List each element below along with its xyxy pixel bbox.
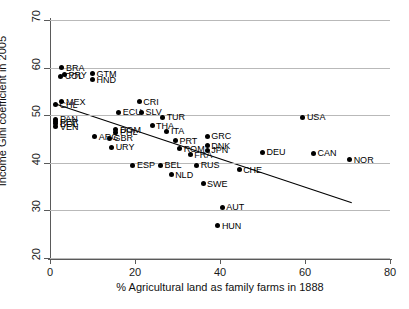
- data-point-label-swe: SWE: [207, 180, 228, 189]
- data-point-gbr[interactable]: [107, 136, 112, 141]
- data-point-grc[interactable]: [205, 134, 210, 139]
- data-point-tur[interactable]: [160, 115, 165, 120]
- data-point-label-jpn: JPN: [211, 146, 228, 155]
- y-tick-50: [44, 115, 50, 116]
- data-point-aut[interactable]: [220, 205, 225, 210]
- data-point-label-bel: BEL: [165, 161, 182, 170]
- data-point-label-ury: URY: [116, 143, 135, 152]
- y-tick-label-wrap-30: 30: [26, 210, 42, 211]
- y-tick-label-60: 60: [31, 58, 42, 70]
- y-tick-label-wrap-20: 20: [26, 258, 42, 259]
- gridline-y-40: [50, 163, 390, 164]
- data-point-label-fra: FRA: [194, 151, 212, 160]
- data-point-label-esp: ESP: [137, 161, 155, 170]
- y-tick-label-30: 30: [31, 200, 42, 212]
- data-point-bel[interactable]: [158, 163, 163, 168]
- data-point-deu[interactable]: [260, 150, 265, 155]
- y-tick-30: [44, 210, 50, 211]
- y-tick-label-70: 70: [31, 10, 42, 22]
- y-tick-label-wrap-50: 50: [26, 115, 42, 116]
- y-tick-70: [44, 20, 50, 21]
- chart-root: Income Gini coefficient in 2005 BRAPRYCO…: [0, 0, 409, 309]
- plot-area: BRAPRYCOLGTMHNDMEXCHLCRIECUSLVTURPANPERB…: [50, 20, 390, 258]
- x-axis-title: % Agricultural land as family farms in 1…: [50, 281, 390, 293]
- y-tick-40: [44, 163, 50, 164]
- data-point-label-col: COL: [65, 72, 84, 81]
- data-point-label-aut: AUT: [226, 203, 244, 212]
- gridline-y-50: [50, 115, 390, 116]
- data-point-fra[interactable]: [188, 152, 193, 157]
- data-point-label-grc: GRC: [211, 132, 231, 141]
- data-point-label-cri: CRI: [143, 98, 159, 107]
- y-tick-60: [44, 68, 50, 69]
- x-tick-80: [390, 259, 391, 264]
- gridline-y-30: [50, 210, 390, 211]
- gridline-y-70: [50, 20, 390, 21]
- x-tick-label-0: 0: [30, 266, 70, 278]
- x-tick-60: [305, 259, 306, 264]
- y-tick-label-40: 40: [31, 153, 42, 165]
- data-point-label-hnd: HND: [97, 76, 117, 85]
- data-point-ury[interactable]: [109, 145, 114, 150]
- y-tick-label-50: 50: [31, 105, 42, 117]
- x-tick-20: [135, 259, 136, 264]
- data-point-label-usa: USA: [307, 113, 326, 122]
- data-point-label-hun: HUN: [222, 222, 242, 231]
- data-point-tha[interactable]: [150, 123, 155, 128]
- data-point-swe[interactable]: [201, 181, 206, 186]
- data-point-label-ven: VEN: [60, 123, 79, 132]
- data-point-label-nor: NOR: [354, 156, 374, 165]
- data-point-label-nld: NLD: [175, 171, 193, 180]
- data-point-label-deu: DEU: [267, 148, 286, 157]
- data-point-rus[interactable]: [194, 163, 199, 168]
- x-tick-label-60: 60: [285, 266, 325, 278]
- data-point-label-chl: CHL: [60, 101, 78, 110]
- data-point-nld[interactable]: [169, 172, 174, 177]
- y-tick-label-wrap-70: 70: [26, 20, 42, 21]
- data-point-col[interactable]: [58, 74, 63, 79]
- data-point-label-rus: RUS: [201, 161, 220, 170]
- data-point-can[interactable]: [311, 151, 316, 156]
- data-point-label-che: CHE: [243, 166, 262, 175]
- data-point-slv[interactable]: [139, 110, 144, 115]
- x-tick-0: [50, 259, 51, 264]
- y-tick-label-wrap-40: 40: [26, 163, 42, 164]
- x-tick-label-80: 80: [370, 266, 409, 278]
- y-tick-label-wrap-60: 60: [26, 68, 42, 69]
- data-point-label-can: CAN: [318, 149, 337, 158]
- x-tick-40: [220, 259, 221, 264]
- y-tick-label-20: 20: [31, 248, 42, 260]
- x-tick-label-20: 20: [115, 266, 155, 278]
- x-tick-label-40: 40: [200, 266, 240, 278]
